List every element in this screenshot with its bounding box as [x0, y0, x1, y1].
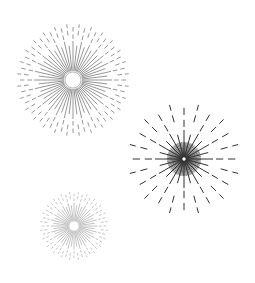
ray-line [91, 202, 93, 204]
ray-line [92, 244, 94, 246]
ray-line [57, 122, 58, 126]
ray-line [84, 28, 85, 32]
center-hole [65, 72, 81, 88]
ray-line [43, 33, 45, 36]
ray-line [46, 241, 48, 242]
ray-line [197, 207, 199, 213]
starburst-canvas [0, 0, 255, 283]
ray-line [84, 198, 85, 200]
ray-line [200, 125, 204, 131]
ray-line [232, 172, 238, 174]
ray-line [170, 207, 172, 213]
ray-line [219, 194, 223, 198]
ray-line [140, 133, 146, 137]
ray-line [194, 196, 196, 203]
ray-line [53, 199, 54, 201]
ray-line [113, 70, 117, 71]
ray-line [100, 241, 102, 242]
ray-line [172, 115, 174, 122]
ray-line [93, 251, 94, 253]
ray-line [38, 112, 41, 115]
ray-line [144, 194, 148, 198]
ray-line [53, 251, 54, 253]
ray-line [172, 196, 174, 203]
ray-line [90, 129, 91, 133]
ray-line [206, 197, 210, 203]
ray-line [197, 105, 199, 111]
ray-line [101, 33, 103, 36]
ray-line [140, 169, 147, 171]
ray-line [103, 213, 105, 214]
ray-line [99, 112, 102, 116]
ray-line [56, 202, 58, 204]
ray-line [200, 187, 204, 193]
ray-line [99, 44, 102, 48]
ray-line [111, 47, 115, 50]
ray-line [99, 245, 101, 246]
ray-line [47, 38, 49, 42]
ray-line [117, 85, 121, 86]
ray-line [26, 50, 29, 52]
ray-line [113, 89, 117, 90]
ray-line [194, 115, 196, 122]
ray-line [61, 28, 62, 32]
ray-line [39, 76, 64, 79]
ray-line [221, 169, 228, 171]
ray-line [43, 213, 45, 214]
ray-line [47, 219, 50, 220]
ray-line [140, 147, 147, 149]
ray-line [95, 203, 97, 205]
ray-line [80, 199, 81, 202]
ray-line [102, 234, 105, 235]
ray-line [88, 34, 89, 38]
ray-line [60, 202, 61, 204]
ray-line [51, 203, 53, 205]
ray-line [29, 70, 33, 71]
ray-line [82, 36, 83, 40]
ray-line [26, 108, 29, 110]
ray-line [82, 254, 83, 257]
ray-line [50, 212, 52, 213]
ray-line [53, 39, 55, 43]
ray-line [158, 197, 162, 203]
ray-line [211, 127, 216, 132]
ray-line [38, 45, 41, 48]
ray-line [21, 68, 25, 69]
ray-line [102, 218, 105, 219]
ray-line [50, 239, 52, 240]
ray-line [29, 89, 33, 90]
ray-line [152, 127, 157, 132]
ray-line [90, 27, 91, 31]
ray-line [88, 122, 89, 126]
ray-line [150, 139, 156, 143]
ray-line [96, 208, 98, 210]
ray-line [54, 244, 56, 246]
ray-line [51, 247, 53, 249]
ray-line [69, 46, 72, 71]
ray-line [99, 236, 101, 237]
ray-line [55, 129, 56, 133]
ray-line [82, 195, 83, 198]
ray-line [47, 205, 49, 206]
ray-line [32, 110, 36, 113]
ray-line [31, 104, 35, 106]
ray-line [96, 239, 98, 240]
ray-line [222, 133, 228, 137]
ray-line [55, 27, 56, 31]
ray-line [24, 85, 28, 86]
ray-line [93, 199, 94, 201]
ray-line [164, 187, 168, 193]
ray-line [98, 219, 101, 220]
ray-line [37, 52, 41, 55]
ray-line [122, 97, 126, 98]
ray-line [61, 195, 62, 197]
ray-line [57, 34, 58, 38]
ray-line [232, 145, 238, 147]
ray-line [43, 234, 46, 235]
ray-line [47, 232, 50, 233]
ray-line [110, 60, 114, 62]
ray-line [40, 39, 43, 43]
ray-line [49, 56, 67, 74]
ray-line [111, 110, 115, 113]
ray-line [94, 32, 96, 36]
